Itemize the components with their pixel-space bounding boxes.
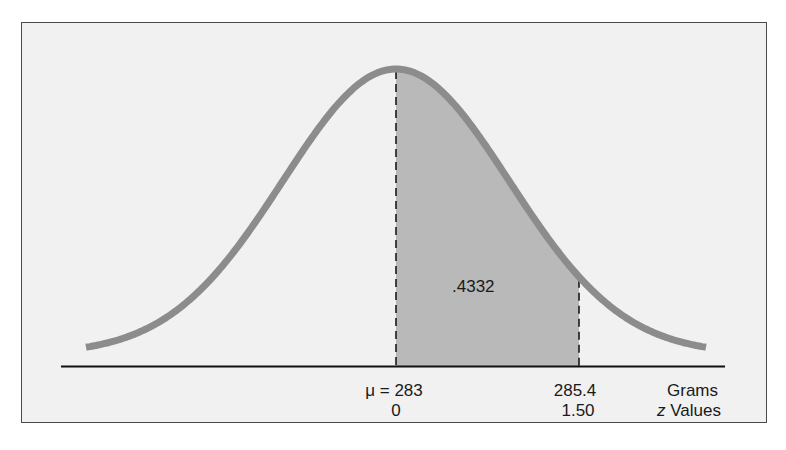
shaded-area-region <box>396 71 579 366</box>
unit-grams-label: Grams <box>667 381 718 400</box>
z-italic: z <box>656 401 666 420</box>
normal-distribution-chart: .4332 μ = 283 285.4 Grams 0 1.50 z Value… <box>0 0 786 450</box>
values-text: Values <box>666 401 721 420</box>
value-grams-label: 285.4 <box>554 381 597 400</box>
value-z-label: 1.50 <box>561 401 594 420</box>
unit-z-label: z Values <box>656 401 721 420</box>
mean-z-label: 0 <box>391 401 400 420</box>
mean-grams-label: μ = 283 <box>365 381 423 400</box>
shaded-area-label: .4332 <box>452 277 495 296</box>
